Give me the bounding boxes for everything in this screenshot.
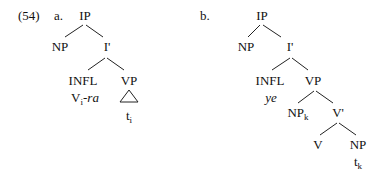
node-b-np: NP [238,40,255,54]
syntax-tree-figure: (54) a. IP NP I' INFL VP Vi-ra ti b. IP … [0,0,378,176]
node-a-ibar: I' [104,40,111,54]
node-a-vp: VP [121,74,138,88]
node-b-vbar: V' [332,106,344,120]
node-a-ip: IP [79,9,91,23]
subexample-label-b: b. [200,9,210,23]
subexample-label-a: a. [54,9,63,23]
infl-content-base: V [71,90,80,105]
node-b-infl-content: ye [265,91,277,105]
trace-index: i [130,115,133,125]
edge-b-vbar-v [320,123,337,135]
example-number: (54) [18,9,40,23]
infl-content-suffix: -ra [83,90,99,105]
edge-a-ip-np [65,25,83,37]
trace-index: k [358,161,363,171]
node-b-vp: VP [305,74,322,88]
node-b-infl: INFL [256,74,285,88]
np-spec-base: NP [287,105,304,120]
node-b-v: V [313,138,322,152]
edge-a-ibar-infl [88,58,105,70]
vp-triangle-icon [120,90,138,102]
np-spec-index: k [304,112,309,122]
edge-b-vp-vbar [316,91,333,103]
node-b-ip: IP [256,9,268,23]
edge-b-vbar-np [339,123,356,135]
node-a-trace: ti [126,109,132,123]
node-a-np: NP [52,40,69,54]
node-b-np-spec: NPk [287,106,308,120]
edge-b-ibar-infl [272,58,290,70]
node-b-np-obj: NP [350,138,367,152]
edge-b-ip-np [248,25,260,37]
edge-b-vp-npk [298,91,314,103]
edge-a-ibar-vp [107,58,124,70]
node-a-infl-content: Vi-ra [71,91,99,105]
node-b-ibar: I' [287,40,294,54]
edge-a-ip-ibar [86,25,103,37]
node-b-trace: tk [354,155,362,169]
edge-b-ip-ibar [263,25,281,37]
node-a-infl: INFL [69,74,98,88]
edge-b-ibar-vp [292,58,308,70]
